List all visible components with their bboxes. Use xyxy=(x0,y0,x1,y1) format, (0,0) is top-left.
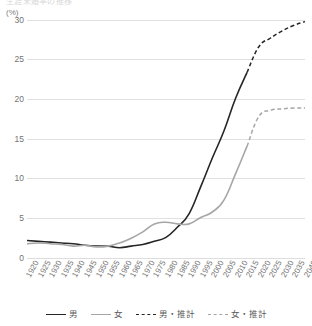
legend-item[interactable]: 女・推計 xyxy=(208,309,267,319)
legend-label: 男 xyxy=(69,309,78,319)
legend-item[interactable]: 男 xyxy=(46,309,78,319)
y-tick-label: 25 xyxy=(2,55,24,64)
series-line xyxy=(247,22,305,73)
legend-label: 女 xyxy=(114,309,123,319)
series-line xyxy=(27,72,247,247)
legend-swatch-4 xyxy=(208,314,228,315)
chart-title-text: 生涯未婚率の推移 xyxy=(6,0,312,6)
y-tick-label: 10 xyxy=(2,174,24,183)
chart-svg xyxy=(27,20,305,258)
legend-swatch-1 xyxy=(46,314,66,315)
y-axis: 051015202530 xyxy=(0,20,24,258)
y-tick-label: 30 xyxy=(2,16,24,25)
legend-item[interactable]: 女 xyxy=(91,309,123,319)
series-lines xyxy=(27,22,305,248)
plot-area xyxy=(27,20,305,258)
y-tick-label: 20 xyxy=(2,95,24,104)
y-tick-label: 0 xyxy=(2,254,24,263)
legend-label: 男・推計 xyxy=(159,309,195,319)
series-line xyxy=(27,146,247,247)
legend-swatch-2 xyxy=(91,314,111,315)
legend-swatch-3 xyxy=(136,314,156,315)
y-tick-label: 5 xyxy=(2,214,24,223)
x-axis: 1920192519301935194019451950195519601965… xyxy=(27,259,305,303)
y-tick-label: 15 xyxy=(2,135,24,144)
chart-legend: 男女男・推計女・推計 xyxy=(0,306,312,322)
series-line xyxy=(247,108,305,146)
chart-title-clipped: 生涯未婚率の推移 xyxy=(0,0,312,7)
legend-label: 女・推計 xyxy=(231,309,267,319)
legend-item[interactable]: 男・推計 xyxy=(136,309,195,319)
chart-container: 生涯未婚率の推移 (%) 051015202530 19201925193019… xyxy=(0,0,312,326)
